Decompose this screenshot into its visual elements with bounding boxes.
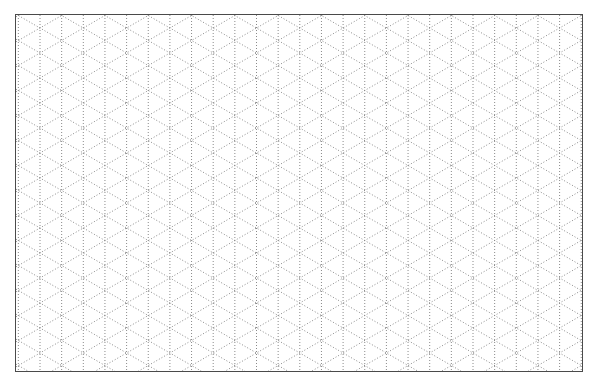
isometric-grid-paper [15,14,583,372]
isometric-grid [16,15,582,371]
